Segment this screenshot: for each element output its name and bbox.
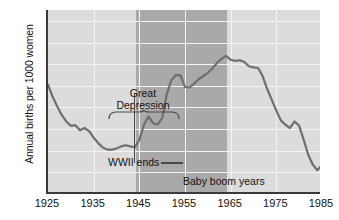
wwii-leader-line (161, 162, 183, 164)
y-axis-title: Annual births per 1000 women (23, 9, 35, 179)
annotation-great-depression: Great Depression (110, 88, 176, 111)
x-tick-1945: 1945 (118, 197, 158, 209)
chart-figure: Annual births per 1000 women 140 130 120… (0, 0, 339, 220)
wwii-leader-vertical (134, 93, 136, 163)
great-depression-line2: Depression (116, 99, 169, 111)
great-depression-brace (108, 110, 180, 120)
x-tick-1955: 1955 (164, 197, 204, 209)
annotation-baby-boom-years: Baby boom years (183, 176, 265, 188)
x-tick-1985: 1985 (301, 197, 339, 209)
plot-area: Great Depression WWII ends Baby boom yea… (46, 10, 320, 194)
x-tick-1965: 1965 (210, 197, 250, 209)
x-tick-1925: 1925 (27, 197, 67, 209)
x-tick-1975: 1975 (255, 197, 295, 209)
x-tick-1935: 1935 (73, 197, 113, 209)
birth-rate-line (48, 10, 320, 194)
